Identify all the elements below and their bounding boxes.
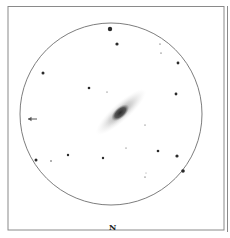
star — [107, 92, 108, 93]
star — [175, 93, 178, 96]
star — [181, 169, 185, 173]
star — [145, 125, 146, 126]
star — [88, 87, 91, 90]
galaxy — [90, 83, 151, 141]
direction-arrow-icon — [28, 117, 37, 121]
star — [177, 62, 180, 65]
star — [108, 27, 112, 31]
star — [67, 154, 69, 156]
star — [159, 43, 160, 44]
eyepiece-sketch: N — [0, 0, 230, 238]
star — [35, 159, 38, 162]
star — [146, 173, 147, 174]
star — [102, 157, 104, 159]
star — [175, 154, 178, 157]
star-field — [35, 27, 185, 178]
star — [144, 176, 145, 177]
star — [157, 150, 160, 153]
star — [42, 72, 45, 75]
star — [160, 52, 161, 53]
star — [50, 160, 51, 161]
sketch-canvas — [0, 0, 230, 238]
north-label: N — [109, 223, 116, 231]
star — [115, 42, 118, 45]
star — [126, 148, 127, 149]
